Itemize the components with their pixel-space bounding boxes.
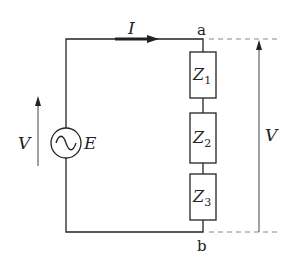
source-voltage-arrow <box>35 96 41 166</box>
node-b-label: b <box>197 237 207 255</box>
ac-source-icon <box>51 128 81 158</box>
impedance-z1: Z1 <box>190 52 216 98</box>
top-wire <box>66 39 203 128</box>
node-a-label: a <box>197 21 206 39</box>
current-arrow <box>115 35 159 43</box>
terminal-voltage-label: V <box>265 125 279 145</box>
emf-label: E <box>83 133 97 153</box>
impedance-z2: Z2 <box>190 113 216 163</box>
bottom-wire <box>66 158 203 232</box>
current-label: I <box>127 18 135 38</box>
source-voltage-label: V <box>18 133 32 153</box>
terminal-voltage-arrow <box>256 40 262 232</box>
circuit-diagram: I a b E V Z1 Z2 Z3 V <box>0 0 300 269</box>
impedance-z3: Z3 <box>190 174 216 220</box>
